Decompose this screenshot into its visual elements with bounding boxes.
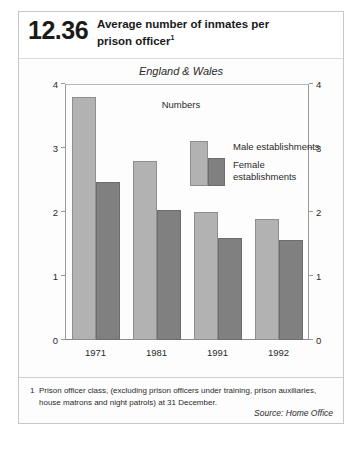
bar-female-1992 xyxy=(279,240,303,340)
figure-title-line1: Average number of inmates per xyxy=(97,18,269,30)
bar-group: 1971 xyxy=(72,84,120,340)
bar-female-1991 xyxy=(218,238,242,340)
y-tick-label-right: 2 xyxy=(316,208,321,218)
plot-area: 01234 01234 1971198119911992 Male establ… xyxy=(65,84,309,340)
bar-group: 1991 xyxy=(194,84,242,340)
y-tick-right xyxy=(309,339,313,340)
bar-male-1991 xyxy=(194,212,218,340)
y-tick-label-left: 3 xyxy=(53,144,58,154)
footnote: 1 Prison officer class, (excluding priso… xyxy=(30,385,335,408)
chart-subtitle: England & Wales xyxy=(19,65,343,77)
bar-group: 1981 xyxy=(133,84,181,340)
x-tick-label: 1971 xyxy=(72,347,120,358)
y-tick-left xyxy=(61,339,65,340)
y-tick-label-left: 2 xyxy=(53,208,58,218)
legend-label-female: Female establishments xyxy=(233,159,296,183)
y-tick-right xyxy=(309,275,313,276)
y-tick-right xyxy=(309,83,313,84)
footnote-marker: 1 xyxy=(30,385,34,397)
legend-swatch-female xyxy=(208,158,225,186)
bar-male-1981 xyxy=(133,161,157,340)
y-tick-left xyxy=(61,211,65,212)
bar-group: 1992 xyxy=(255,84,303,340)
figure-number: 12.36 xyxy=(28,16,88,45)
x-tick-label: 1992 xyxy=(255,347,303,358)
y-tick-label-left: 0 xyxy=(53,336,58,346)
x-tick-label: 1981 xyxy=(133,347,181,358)
y-tick-label-right: 1 xyxy=(316,272,321,282)
bar-female-1971 xyxy=(96,182,120,340)
figure-header: 12.36 Average number of inmates per pris… xyxy=(19,12,343,59)
figure-footer: 1 Prison officer class, (excluding priso… xyxy=(19,377,343,423)
legend-label-male: Male establishments xyxy=(233,141,320,153)
legend-swatch-male xyxy=(190,141,208,186)
y-tick-label-right: 0 xyxy=(316,336,321,346)
y-tick-right xyxy=(309,211,313,212)
chart-area: England & Wales Numbers 01234 01234 1971… xyxy=(19,59,343,377)
page-title: Average number of inmates per prison off… xyxy=(97,17,337,49)
y-tick-left xyxy=(61,275,65,276)
y-tick-label-left: 4 xyxy=(53,80,58,90)
figure-title-line2: prison officer xyxy=(97,34,170,46)
y-tick-label-right: 4 xyxy=(316,80,321,90)
x-tick-label: 1991 xyxy=(194,347,242,358)
figure-panel: 12.36 Average number of inmates per pris… xyxy=(18,11,344,424)
y-tick-label-left: 1 xyxy=(53,272,58,282)
footnote-text: Prison officer class, (excluding prison … xyxy=(39,385,335,408)
y-tick-left xyxy=(61,83,65,84)
source-note: Source: Home Office xyxy=(254,408,333,418)
y-tick-left xyxy=(61,147,65,148)
bar-male-1992 xyxy=(255,219,279,340)
figure-title-footnote-marker: 1 xyxy=(170,34,174,41)
bar-female-1981 xyxy=(157,210,181,340)
bar-male-1971 xyxy=(72,97,96,340)
